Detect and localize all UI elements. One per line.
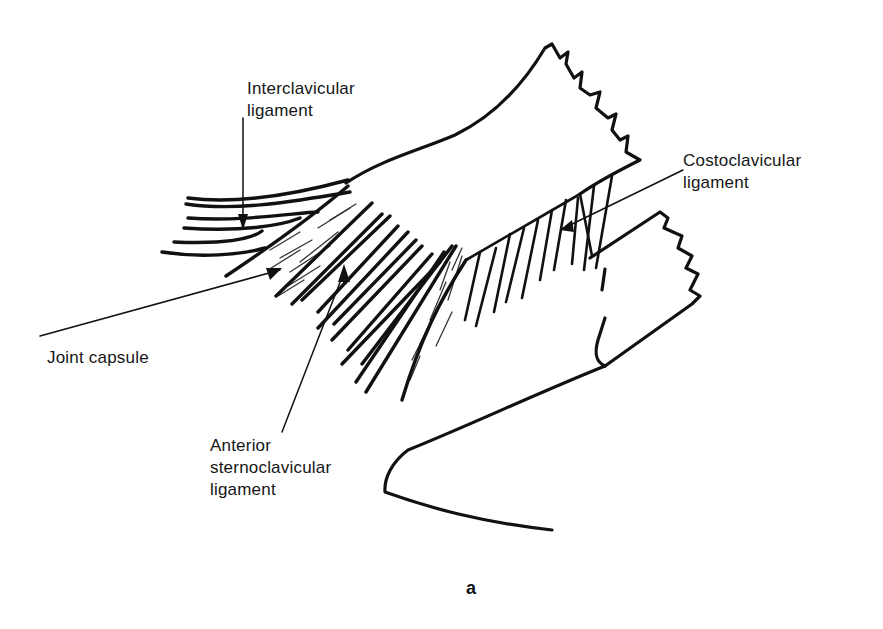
interclavicular-ligament-fibers [162,180,350,276]
label-interclavicular-ligament: Interclavicular ligament [247,78,355,122]
panel-letter: a [466,578,476,599]
label-line: Joint capsule [47,347,149,369]
label-line: ligament [247,100,355,122]
label-line: Costoclavicular [683,150,801,172]
label-joint-capsule: Joint capsule [47,347,149,369]
label-line: Interclavicular [247,78,355,100]
sternoclavicular-diagram: Interclavicular ligament Costoclavicular… [0,0,883,629]
leader-interclavicular [238,118,248,230]
clavicle [346,44,640,194]
label-line: sternoclavicular [210,457,331,479]
label-line: Anterior [210,435,331,457]
leader-joint-capsule [40,268,282,336]
label-line: ligament [683,172,801,194]
label-line: ligament [210,479,331,501]
costoclavicular-ligament-fibers [465,176,612,326]
label-anterior-sternoclavicular-ligament: Anterior sternoclavicular ligament [210,435,331,501]
label-costoclavicular-ligament: Costoclavicular ligament [683,150,801,194]
